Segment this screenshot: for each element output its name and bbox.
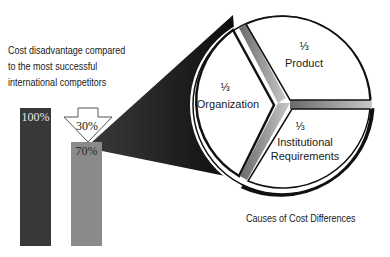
cost-causes-pie: ⅓ Product ⅓ Organization ⅓ Institutional… [190,13,374,197]
institutional-fraction: ⅓ [295,120,304,132]
bar-100-label: 100% [22,110,50,124]
product-label: Product [285,57,323,69]
organization-fraction: ⅓ [220,81,229,93]
product-fraction: ⅓ [299,40,308,52]
organization-label: Organization [197,98,259,110]
institutional-label-1: Institutional [277,136,333,148]
bar-100: 100% [20,108,51,246]
institutional-label-2: Requirements [271,150,340,162]
arrow-label: 30% [76,119,98,133]
pie-caption: Causes of Cost Differences [246,212,356,224]
bar-70-label: 70% [76,144,98,158]
bar-70: 70% [71,142,102,246]
